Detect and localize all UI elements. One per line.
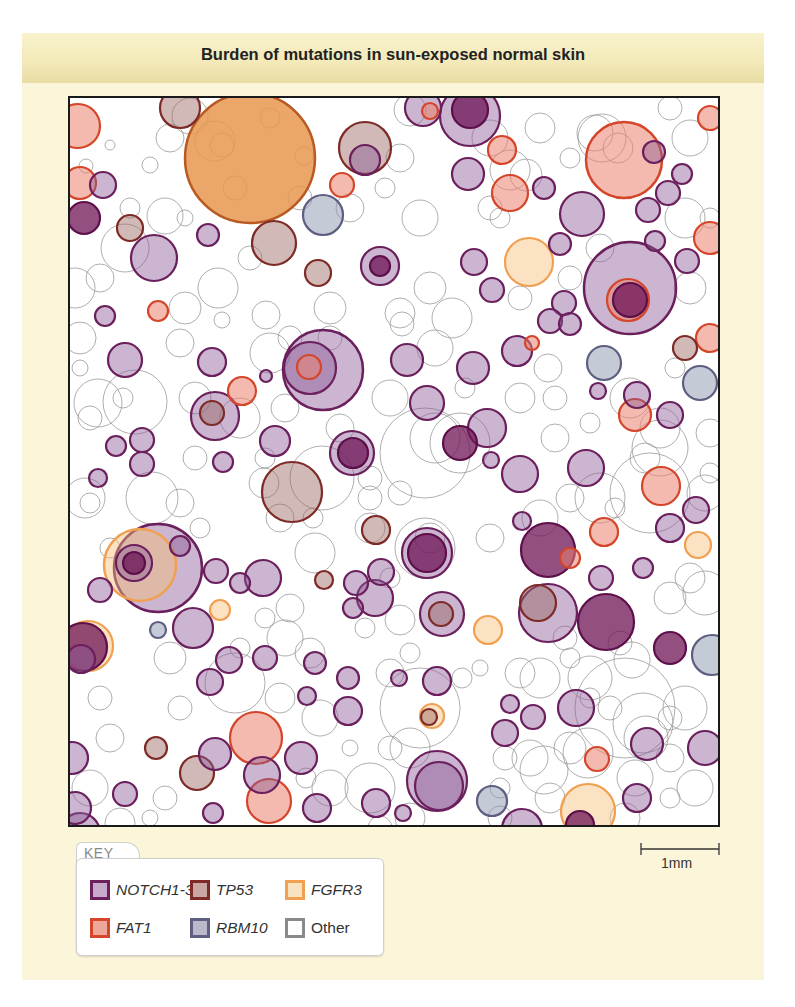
mutant-clone-circle xyxy=(410,386,444,420)
other-clone-circle xyxy=(375,178,395,198)
other-clone-circle xyxy=(168,696,192,720)
mutant-clone-circle xyxy=(304,652,326,674)
other-clone-circle xyxy=(276,594,304,622)
mutant-clone-circle xyxy=(688,731,718,765)
mutant-clone-circle xyxy=(173,608,213,648)
other-clone-circle xyxy=(265,683,295,713)
mutant-clone-circle xyxy=(160,98,200,128)
other-clone-circle xyxy=(385,298,415,328)
mutant-clone-circle xyxy=(421,709,437,725)
other-clone-circle xyxy=(105,808,135,825)
mutant-clone-circle xyxy=(443,426,477,460)
mutant-clone-circle xyxy=(501,695,519,713)
other-clone-circle xyxy=(142,157,158,173)
other-clone-circle xyxy=(86,264,114,292)
mutant-clone-circle xyxy=(578,594,634,650)
mutant-clone-circle xyxy=(305,260,331,286)
other-clone-circle xyxy=(558,266,582,290)
other-clone-circle xyxy=(534,354,562,382)
legend-label: Other xyxy=(311,919,350,937)
legend-item-fgfr3: FGFR3 xyxy=(285,880,362,900)
other-clone-circle xyxy=(525,113,555,143)
mutant-clone-circle xyxy=(334,697,362,725)
other-clone-circle xyxy=(177,210,193,226)
mutant-clone-circle xyxy=(505,238,553,286)
other-clone-circle xyxy=(560,148,580,168)
other-clone-circle xyxy=(70,322,96,354)
mutant-clone-circle xyxy=(303,794,331,822)
rbm10-swatch-icon xyxy=(190,918,210,938)
mutant-clone-circle xyxy=(199,738,231,770)
other-clone-circle xyxy=(314,292,346,324)
mutant-clone-circle xyxy=(253,646,277,670)
mutant-clone-circle xyxy=(216,647,242,673)
other-clone-circle xyxy=(169,292,201,324)
mutant-clone-circle xyxy=(452,158,484,190)
other-clone-circle xyxy=(696,419,718,447)
other-clone-circle xyxy=(663,686,707,730)
scale-bar-label: 1mm xyxy=(661,855,692,871)
mutant-clone-circle xyxy=(130,428,154,452)
mutant-clone-circle xyxy=(657,402,683,428)
other-clone-circle xyxy=(402,200,438,236)
mutant-clone-circle xyxy=(654,632,686,664)
legend-item-fat1: FAT1 xyxy=(90,918,152,938)
other-clone-circle xyxy=(355,618,375,638)
legend-key xyxy=(76,858,384,956)
other-clone-circle xyxy=(252,301,280,329)
mutant-clone-circle xyxy=(429,602,453,626)
mutant-clone-circle xyxy=(113,782,137,806)
mutant-clone-circle xyxy=(560,192,604,236)
notch-swatch-icon xyxy=(90,880,110,900)
legend-label: TP53 xyxy=(216,881,253,899)
mutant-clone-circle xyxy=(362,789,390,817)
mutant-clone-circle xyxy=(631,728,663,760)
other-clone-circle xyxy=(508,286,532,310)
other-clone-circle xyxy=(543,386,567,410)
mutant-clone-circle xyxy=(642,467,680,505)
mutant-clone-circle xyxy=(148,301,168,321)
other-clone-circle xyxy=(505,383,535,413)
mutant-clone-circle xyxy=(520,585,556,621)
other-clone-circle xyxy=(78,406,102,430)
fat1-swatch-icon xyxy=(90,918,110,938)
mutant-clone-circle xyxy=(70,742,88,774)
mutant-clone-circle xyxy=(624,382,650,408)
mutant-clone-circle xyxy=(350,145,380,175)
mutant-clone-circle xyxy=(145,737,167,759)
other-clone-circle xyxy=(153,786,177,810)
other-clone-circle xyxy=(142,810,158,825)
other-clone-circle xyxy=(598,696,622,720)
mutant-clone-circle xyxy=(675,249,699,273)
other-clone-circle xyxy=(126,472,178,524)
mutant-clone-circle xyxy=(203,803,223,823)
other-clone-circle xyxy=(658,98,682,120)
mutant-clone-circle xyxy=(685,532,711,558)
mutant-clone-circle xyxy=(210,600,230,620)
other-clone-circle xyxy=(372,380,408,416)
mutant-clone-circle xyxy=(643,141,665,163)
mutant-clone-circle xyxy=(559,313,581,335)
mutant-clone-circle xyxy=(131,235,177,281)
mutant-clone-circle xyxy=(260,426,290,456)
mutant-clone-circle xyxy=(204,559,228,583)
mutant-clone-circle xyxy=(343,598,363,618)
mutant-clone-circle xyxy=(391,344,423,376)
mutant-clone-circle xyxy=(408,534,446,572)
mutant-clone-circle xyxy=(502,809,542,825)
scale-bar-icon xyxy=(640,843,720,855)
other-swatch-icon xyxy=(285,918,305,938)
mutant-clone-circle xyxy=(673,336,697,360)
other-clone-circle xyxy=(80,493,100,513)
mutant-clone-circle xyxy=(590,383,606,399)
mutant-clone-circle xyxy=(623,784,651,812)
mutant-clone-circle xyxy=(587,346,621,380)
other-clone-circle xyxy=(520,658,560,698)
mutant-clone-circle xyxy=(558,690,594,726)
mutant-clone-circle xyxy=(672,164,692,184)
other-clone-circle xyxy=(674,272,706,304)
other-clone-circle xyxy=(214,312,230,328)
mutant-clone-circle xyxy=(549,233,571,255)
mutant-clone-circle xyxy=(260,370,272,382)
other-clone-circle xyxy=(432,298,472,338)
